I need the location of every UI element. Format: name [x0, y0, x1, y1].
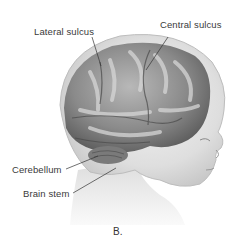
label-lateral-sulcus: Lateral sulcus — [34, 26, 94, 37]
label-brain-stem: Brain stem — [23, 188, 69, 199]
label-central-sulcus: Central sulcus — [160, 19, 222, 30]
brain-diagram: Lateral sulcus Central sulcus Cerebellum… — [0, 0, 239, 243]
label-cerebellum: Cerebellum — [12, 164, 62, 175]
figure-caption: B. — [113, 226, 122, 237]
